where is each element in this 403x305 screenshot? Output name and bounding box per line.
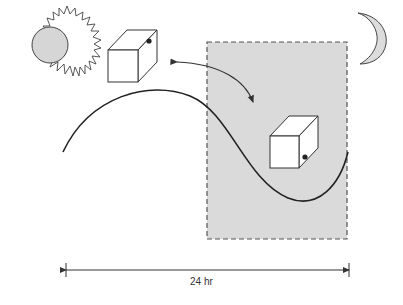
timeline-24hr — [66, 263, 349, 277]
day-night-diagram — [0, 0, 403, 305]
moon-icon — [358, 13, 386, 64]
sun-icon — [32, 6, 101, 76]
cube-day-icon — [108, 30, 157, 82]
timeline-label: 24 hr — [190, 276, 213, 287]
